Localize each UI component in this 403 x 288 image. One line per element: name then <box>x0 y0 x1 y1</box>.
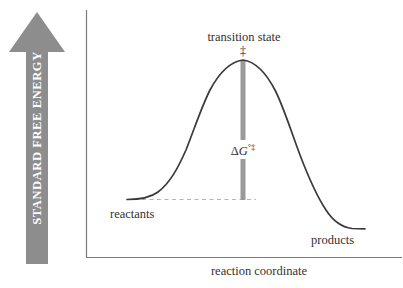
reaction-energy-diagram: STANDARD FREE ENERGY transition state ‡ … <box>0 0 403 288</box>
reactants-label: reactants <box>110 207 154 222</box>
g-variable: G <box>239 144 248 158</box>
delta-symbol: Δ <box>231 144 239 158</box>
standard-state-double-dagger: °‡ <box>248 142 256 152</box>
double-dagger-icon: ‡ <box>240 44 246 59</box>
x-axis-label: reaction coordinate <box>211 264 307 279</box>
products-label: products <box>311 233 354 248</box>
transition-state-label: transition state <box>207 30 280 45</box>
plot-area: transition state ‡ ΔG°‡ reactants produc… <box>0 0 403 288</box>
activation-energy-bar <box>241 60 246 200</box>
activation-energy-label: ΔG°‡ <box>229 140 258 159</box>
